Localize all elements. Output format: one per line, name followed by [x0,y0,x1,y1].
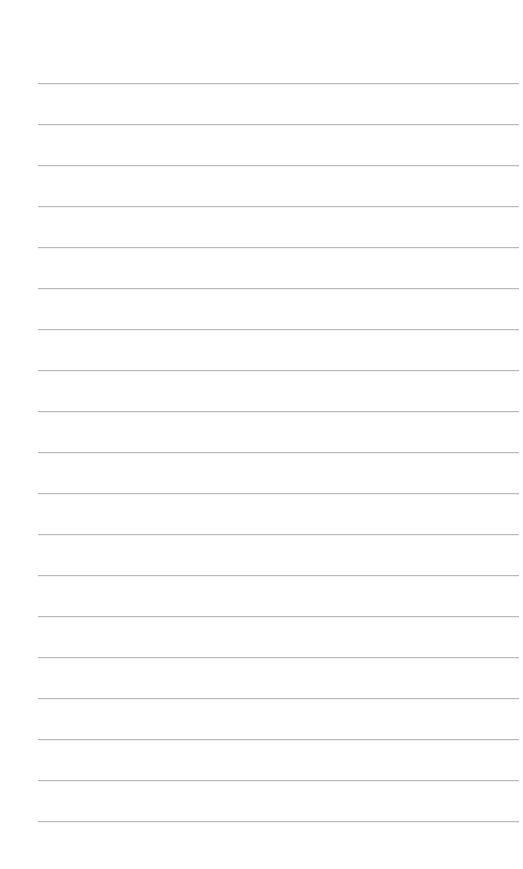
rule-line [38,247,519,248]
rule-line [38,329,519,330]
rule-line [38,739,519,740]
rule-line [38,370,519,371]
rule-line [38,534,519,535]
rule-line [38,288,519,289]
lined-paper-page [0,0,523,869]
rule-line [38,493,519,494]
rule-line [38,165,519,166]
rule-line [38,83,519,84]
rule-line [38,821,519,822]
rule-line [38,780,519,781]
rule-line [38,575,519,576]
rule-line [38,698,519,699]
rule-line [38,124,519,125]
rule-line [38,657,519,658]
rule-line [38,411,519,412]
rule-line [38,452,519,453]
rule-line [38,206,519,207]
rule-line [38,616,519,617]
